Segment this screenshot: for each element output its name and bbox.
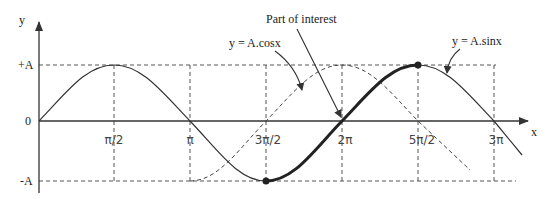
part-of-interest-label: Part of interest [266,12,337,26]
cos-label-arrow [275,51,302,90]
x-tick-3pi-2: 3π/2 [255,133,282,147]
x-tick-pi: π [186,133,193,147]
sine-curve [39,65,522,181]
part-of-interest-arrow [297,29,341,117]
guide-lines [39,65,516,181]
cos-label: y = A.cosx [229,36,281,50]
y-tick-minus-a: -A [20,174,33,188]
end-point [415,62,422,69]
start-point [263,178,270,185]
y-axis-label: y [19,13,25,27]
cosine-curve [190,65,470,181]
sin-label-arrow [447,49,460,73]
y-tick-zero: 0 [25,114,31,128]
x-tick-2pi: 2π [338,133,353,147]
x-tick-5pi-2: 5π/2 [409,133,436,147]
sine-cosine-diagram: y x +A 0 -A π/2 π 3π/2 2π 5π/2 3π Part o… [0,0,557,199]
x-tick-3pi: 3π [489,133,504,147]
x-tick-pi-2: π/2 [105,133,124,147]
y-tick-plus-a: +A [18,58,34,72]
x-axis-label: x [531,125,537,139]
sin-label: y = A.sinx [452,34,502,48]
